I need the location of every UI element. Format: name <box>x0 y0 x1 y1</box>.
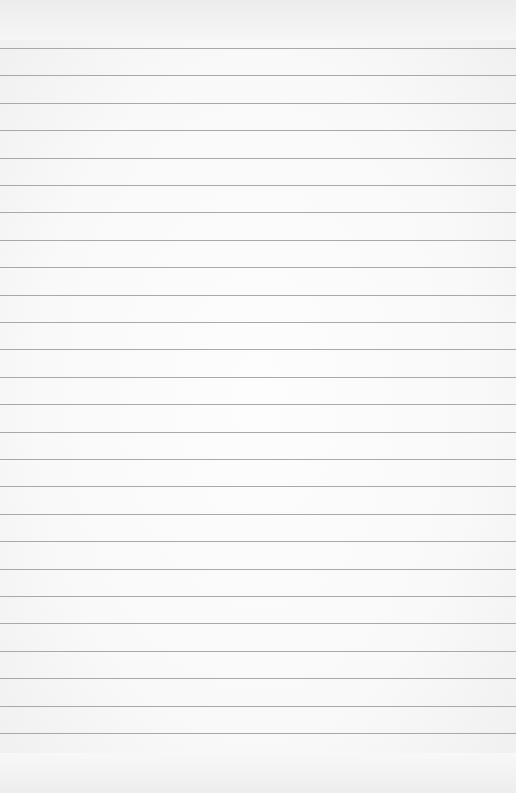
ruled-line <box>0 240 516 241</box>
ruled-line <box>0 486 516 487</box>
ruled-line <box>0 623 516 624</box>
bottom-margin <box>0 753 516 793</box>
ruled-line <box>0 459 516 460</box>
ruled-line <box>0 185 516 186</box>
ruled-line <box>0 377 516 378</box>
ruled-line <box>0 158 516 159</box>
ruled-line <box>0 514 516 515</box>
ruled-line <box>0 651 516 652</box>
ruled-line <box>0 706 516 707</box>
ruled-line <box>0 733 516 734</box>
lined-paper <box>0 0 516 793</box>
ruled-line <box>0 295 516 296</box>
ruled-line <box>0 322 516 323</box>
ruled-line <box>0 75 516 76</box>
ruled-line <box>0 130 516 131</box>
ruled-line <box>0 212 516 213</box>
ruled-line <box>0 678 516 679</box>
ruled-line <box>0 48 516 49</box>
ruled-line <box>0 404 516 405</box>
top-margin <box>0 0 516 40</box>
ruled-line <box>0 541 516 542</box>
ruled-line <box>0 432 516 433</box>
ruled-line <box>0 349 516 350</box>
ruled-line <box>0 569 516 570</box>
ruled-line <box>0 267 516 268</box>
ruled-line <box>0 596 516 597</box>
ruled-line <box>0 103 516 104</box>
